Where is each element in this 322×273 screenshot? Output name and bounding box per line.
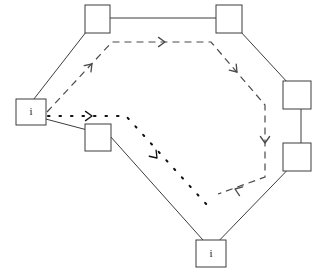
node-box-right-upper-rect[interactable]	[283, 81, 311, 109]
diagram-canvas: ii	[0, 0, 322, 273]
node-box-bottom[interactable]: i	[196, 240, 226, 267]
polygon-layer	[23, 18, 301, 249]
dot-arrow-1-arrowhead-icon	[86, 111, 93, 120]
dashed-route-path-group	[47, 37, 270, 195]
outer-polygon	[23, 18, 301, 249]
node-box-bottom-label: i	[209, 247, 212, 259]
nodes-layer: ii	[16, 5, 311, 267]
paths-layer	[47, 37, 270, 206]
node-box-mid-left[interactable]	[85, 124, 111, 151]
node-box-right-lower-rect[interactable]	[283, 143, 311, 171]
dashed-route-path	[47, 42, 265, 194]
node-box-right-upper[interactable]	[283, 81, 311, 109]
node-box-right-lower[interactable]	[283, 143, 311, 171]
node-box-top-right-rect[interactable]	[216, 5, 242, 33]
dotted-route-path	[48, 116, 208, 206]
diagram-svg: ii	[0, 0, 322, 273]
node-box-top-left[interactable]	[85, 5, 110, 33]
node-box-mid-left-rect[interactable]	[85, 124, 111, 151]
node-box-top-left-rect[interactable]	[85, 5, 110, 33]
node-box-top-right[interactable]	[216, 5, 242, 33]
node-box-left[interactable]: i	[16, 99, 46, 125]
node-box-left-label: i	[29, 105, 32, 117]
